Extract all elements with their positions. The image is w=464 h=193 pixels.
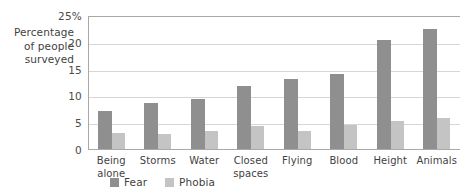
bar-phobia-6 <box>391 121 404 150</box>
bar-phobia-3 <box>251 126 264 150</box>
plot-area <box>88 16 460 150</box>
bar-phobia-2 <box>205 131 218 150</box>
bar-fear-7 <box>423 29 437 150</box>
legend-label-fear: Fear <box>124 176 147 188</box>
y-tick-label-20: 20 <box>48 37 82 49</box>
bar-phobia-4 <box>298 131 311 150</box>
bar-phobia-1 <box>158 134 171 150</box>
bar-fear-6 <box>377 40 391 150</box>
bar-fear-5 <box>330 74 344 150</box>
x-tick-label-7-line-0: Animals <box>406 155 464 168</box>
bar-phobia-7 <box>437 118 450 150</box>
bar-fear-1 <box>144 103 158 150</box>
bar-fear-0 <box>98 111 112 150</box>
legend: FearPhobia <box>110 176 215 188</box>
y-tick-label-25: 25% <box>48 10 82 22</box>
y-tick-label-10: 10 <box>48 90 82 102</box>
bar-phobia-5 <box>344 125 357 150</box>
x-axis-line <box>88 149 460 150</box>
legend-swatch-fear <box>110 178 119 187</box>
bars-layer <box>88 17 460 150</box>
bar-fear-4 <box>284 79 298 150</box>
y-tick-label-0: 0 <box>48 144 82 156</box>
legend-item-fear: Fear <box>110 176 147 188</box>
y-tick-label-5: 5 <box>48 117 82 129</box>
x-tick-label-3-line-1: spaces <box>220 168 283 181</box>
legend-item-phobia: Phobia <box>165 176 215 188</box>
bar-phobia-0 <box>112 133 125 150</box>
legend-label-phobia: Phobia <box>179 176 215 188</box>
x-tick-label-7: Animals <box>406 155 464 168</box>
legend-swatch-phobia <box>165 178 174 187</box>
bar-fear-2 <box>191 99 205 150</box>
chart-figure: Percentage of people surveyed 0510152025… <box>0 0 464 193</box>
y-tick-label-15: 15 <box>48 64 82 76</box>
bar-fear-3 <box>237 86 251 150</box>
